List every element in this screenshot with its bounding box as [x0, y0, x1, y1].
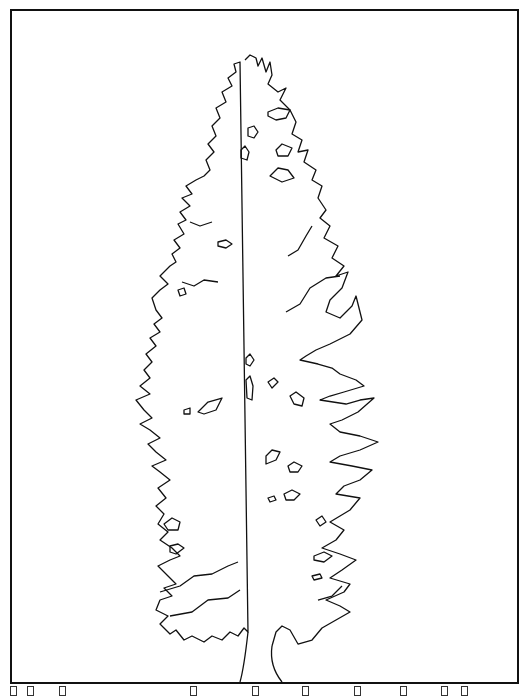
foliage-gap	[314, 552, 332, 562]
foliage-gap	[268, 108, 290, 120]
foliage-gap	[218, 240, 232, 248]
missing-glyph-box	[10, 686, 17, 696]
missing-glyph-box	[252, 686, 259, 696]
foliage-gap	[246, 354, 254, 366]
missing-glyph-box	[27, 686, 34, 696]
missing-glyph-box	[190, 686, 197, 696]
branch-ridge	[190, 222, 212, 226]
branch-ridge	[170, 590, 240, 616]
missing-glyph-box	[461, 686, 468, 696]
foliage-gap	[312, 574, 322, 580]
foliage-gap	[246, 376, 253, 400]
foliage-gap	[316, 516, 326, 526]
branch-ridge	[286, 276, 340, 312]
foliage-gap	[198, 398, 222, 414]
missing-glyph-box	[400, 686, 407, 696]
foliage-gap	[268, 496, 276, 502]
foliage-gap	[248, 126, 258, 138]
foliage-gap	[288, 462, 302, 472]
missing-glyph-box	[59, 686, 66, 696]
foliage-gap	[164, 518, 180, 530]
foliage-gap	[284, 490, 300, 500]
missing-glyph-box	[354, 686, 361, 696]
unrendered-glyph-row	[0, 684, 526, 697]
branch-ridge	[288, 226, 312, 256]
tree-trunk-left	[240, 632, 248, 682]
foliage-gap	[276, 144, 292, 156]
branch-ridge	[160, 562, 238, 592]
foliage-gap	[178, 288, 186, 296]
foliage-gap	[290, 392, 304, 406]
foliage-gap	[268, 378, 278, 388]
missing-glyph-box	[302, 686, 309, 696]
tree-trunk-right	[271, 646, 282, 682]
branch-ridge	[182, 280, 218, 286]
tree-canopy-outline	[136, 55, 378, 646]
tree-drawing	[0, 0, 526, 697]
missing-glyph-box	[441, 686, 448, 696]
foliage-gap	[184, 408, 190, 414]
foliage-gap	[241, 146, 249, 160]
foliage-gap	[270, 168, 294, 182]
foliage-gap	[266, 450, 280, 464]
